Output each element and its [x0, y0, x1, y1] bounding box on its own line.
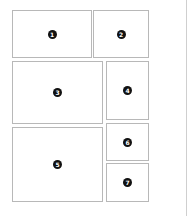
panel-6: 6 [106, 123, 149, 161]
panel-2: 2 [93, 10, 149, 58]
panel-3: 3 [12, 61, 103, 124]
panel-7: 7 [106, 163, 149, 202]
number-badge-4: 4 [123, 86, 132, 95]
page-edge-divider [186, 0, 187, 216]
panel-5: 5 [12, 127, 103, 202]
number-badge-6: 6 [123, 138, 132, 147]
number-badge-5: 5 [53, 160, 62, 169]
number-badge-2: 2 [117, 30, 126, 39]
panel-1: 1 [12, 10, 92, 58]
panel-4: 4 [106, 61, 149, 120]
number-badge-3: 3 [53, 88, 62, 97]
number-badge-7: 7 [123, 178, 132, 187]
number-badge-1: 1 [48, 30, 57, 39]
